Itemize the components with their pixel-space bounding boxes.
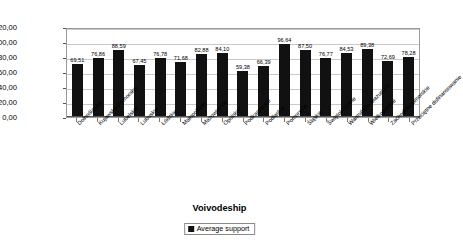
bar-value-label: 88,59	[112, 43, 126, 49]
bar-value-label: 72,69	[381, 54, 395, 60]
bar-slot: 76,77	[315, 29, 336, 116]
x-axis-label-slot: Lubuskie	[128, 120, 149, 200]
y-axis-tick-label: 100,00	[0, 39, 17, 47]
x-axis-label-slot: Zachodniopomorskie	[378, 120, 399, 200]
x-axis-label-slot: Dolnośląskie	[66, 120, 87, 200]
x-axis-label-slot: Kujawsko-Pomorskie	[87, 120, 108, 200]
bar: 69,51	[72, 64, 83, 116]
y-axis-tick-label: 80,00	[0, 54, 17, 62]
x-axis-label-slot: Podlaskie	[253, 120, 274, 200]
bar-slot: 76,78	[150, 29, 171, 116]
bar-value-label: 76,77	[319, 51, 333, 57]
x-axis-label-slot: Warmińsko-Mazurskie	[337, 120, 358, 200]
axis-baseline	[67, 116, 419, 117]
bar-value-label: 78,28	[402, 50, 416, 56]
y-axis-tick-label: 0,00	[0, 114, 17, 122]
bar-value-label: 69,51	[70, 57, 84, 63]
y-axis-tick-label: 40,00	[0, 84, 17, 92]
bar-value-label: 76,86	[91, 51, 105, 57]
x-axis-label-slot: Przeciętne dofinansowanie	[399, 120, 420, 200]
bar-value-label: 76,78	[153, 51, 167, 57]
bar-slot: 59,38	[233, 29, 254, 116]
bar-value-label: 66,39	[257, 59, 271, 65]
bar-slot: 71,68	[171, 29, 192, 116]
bar-value-label: 71,68	[174, 55, 188, 61]
bar-slot: 96,64	[274, 29, 295, 116]
x-axis-label-slot: Wielkopolskie	[358, 120, 379, 200]
x-axis-label-slot: Łódzkie	[149, 120, 170, 200]
bar-value-label: 89,38	[360, 42, 374, 48]
bar-value-label: 84,10	[215, 46, 229, 52]
bar-slot: 67,45	[129, 29, 150, 116]
legend-label: Average support	[197, 225, 250, 233]
legend-swatch-icon	[188, 226, 194, 232]
x-axis-label-slot: Mazowieckie	[191, 120, 212, 200]
x-axis-label-slot: Pomorskie	[274, 120, 295, 200]
x-axis-title: Voivodeship	[0, 203, 439, 213]
bar-value-label: 82,88	[195, 47, 209, 53]
x-axis-label-slot: Lubelskie	[108, 120, 129, 200]
x-axis-label-slot: Opolskie	[212, 120, 233, 200]
x-axis-label-slot: Świętokrzyskie	[316, 120, 337, 200]
bar: 71,68	[175, 62, 186, 116]
y-axis-tick-label: 120,00	[0, 24, 17, 32]
bar-slot: 87,50	[295, 29, 316, 116]
bar-value-label: 67,45	[132, 58, 146, 64]
x-axis-label-slot: Śląskie	[295, 120, 316, 200]
chart-legend: Average support	[184, 223, 256, 235]
bar-value-label: 84,53	[339, 46, 353, 52]
bar-value-label: 59,38	[236, 64, 250, 70]
bar-value-label: 96,64	[277, 37, 291, 43]
y-axis-tick-label: 20,00	[0, 99, 17, 107]
bar: 76,77	[320, 58, 331, 116]
x-axis-labels: DolnośląskieKujawsko-PomorskieLubelskieL…	[66, 120, 420, 200]
bar-value-label: 87,50	[298, 43, 312, 49]
x-axis-label-slot: Podkarpackie	[233, 120, 254, 200]
bar-slot: 69,51	[67, 29, 88, 116]
x-axis-label-slot: Małopolskie	[170, 120, 191, 200]
y-axis-tick-label: 60,00	[0, 69, 17, 77]
